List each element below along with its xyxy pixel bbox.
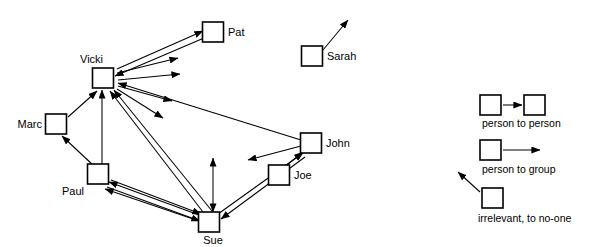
node-label-vicki: Vicki xyxy=(80,53,103,65)
node-box-sarah[interactable] xyxy=(302,46,323,66)
edge-vicki-group-3 xyxy=(118,86,172,101)
node-label-sarah: Sarah xyxy=(327,50,356,62)
legend-box-target-person-to-person xyxy=(524,95,545,115)
edge-paul-sue-3 xyxy=(111,180,201,214)
node-joe[interactable]: Joe xyxy=(269,165,312,185)
node-marc[interactable]: Marc xyxy=(18,114,67,134)
node-sue[interactable]: Sue xyxy=(199,212,223,246)
edge-john-group xyxy=(248,146,301,160)
sociogram-diagram: VickiPatSarahMarcJohnJoePaulSue person t… xyxy=(0,0,590,247)
node-box-joe[interactable] xyxy=(269,165,290,185)
node-box-paul[interactable] xyxy=(88,164,109,184)
edge-marc-vicki xyxy=(68,91,97,117)
legend-label-person-to-group: person to group xyxy=(482,163,556,175)
node-label-paul: Paul xyxy=(62,185,84,197)
sociogram-canvas: VickiPatSarahMarcJohnJoePaulSue person t… xyxy=(0,0,590,247)
node-box-pat[interactable] xyxy=(203,22,224,42)
node-paul[interactable]: Paul xyxy=(62,164,109,197)
node-label-marc: Marc xyxy=(18,118,43,130)
node-label-sue: Sue xyxy=(203,234,223,246)
legend-label-person-to-person: person to person xyxy=(482,117,561,129)
edge-sue-vicki-a xyxy=(110,91,203,212)
node-label-pat: Pat xyxy=(228,26,245,38)
legend-item-person-to-group: person to group xyxy=(480,140,556,175)
node-box-john[interactable] xyxy=(301,133,322,153)
node-box-sue[interactable] xyxy=(199,212,220,232)
node-pat[interactable]: Pat xyxy=(203,22,245,42)
edge-paul-sue-2 xyxy=(105,189,199,221)
edge-paul-sue-1 xyxy=(109,182,199,215)
legend-arrow-irrelevant xyxy=(458,172,480,192)
legend-label-irrelevant: irrelevant, to no-one xyxy=(478,212,572,224)
edge-vicki-group-4 xyxy=(117,89,163,118)
edge-vicki-pat xyxy=(117,31,203,69)
edge-vicki-group-2 xyxy=(118,74,180,80)
legend-box-source-person-to-group xyxy=(480,140,501,160)
edge-paul-sue-4 xyxy=(107,187,200,221)
node-sarah[interactable]: Sarah xyxy=(302,46,357,66)
nodes-layer: VickiPatSarahMarcJohnJoePaulSue xyxy=(18,22,357,246)
edge-sarah-none xyxy=(323,20,348,50)
node-label-joe: Joe xyxy=(294,169,312,181)
node-box-vicki[interactable] xyxy=(93,68,114,88)
node-box-marc[interactable] xyxy=(46,114,67,134)
legend-box-source-irrelevant xyxy=(482,188,503,208)
edge-john-vicki xyxy=(118,83,301,140)
node-john[interactable]: John xyxy=(301,133,350,153)
legend-item-irrelevant: irrelevant, to no-one xyxy=(458,172,572,224)
node-label-john: John xyxy=(326,137,350,149)
node-vicki[interactable]: Vicki xyxy=(80,53,114,88)
legend-box-source-person-to-person xyxy=(480,95,501,115)
edge-paul-marc xyxy=(62,136,93,165)
edge-john-sue xyxy=(221,157,305,219)
legend-item-person-to-person: person to person xyxy=(480,95,561,129)
legend-layer: person to personperson to groupirrelevan… xyxy=(458,95,572,224)
